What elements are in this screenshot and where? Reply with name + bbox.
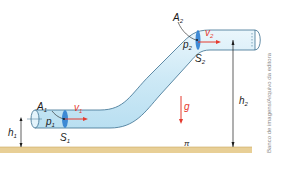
label-s2: S2: [195, 53, 206, 65]
label-s1: S1: [60, 132, 70, 144]
label-h1: h1: [8, 127, 17, 139]
label-h2: h2: [239, 95, 249, 107]
ground-plane: [0, 147, 252, 153]
label-a2: A2: [172, 12, 184, 24]
pipe: [35, 30, 255, 128]
label-v2: v2: [205, 27, 214, 39]
label-plane-pi: π: [184, 139, 190, 148]
label-a1: A1: [36, 101, 47, 113]
pipe-outlet: [255, 30, 260, 50]
label-v1: v1: [74, 102, 82, 114]
image-credit: Banco de imagens/Arquivo da editora: [262, 35, 276, 170]
bernoulli-diagram: A1 p1 v1 S1 h1 A2 p2 v2 S2 h2 g π: [0, 0, 282, 172]
label-g: g: [184, 101, 190, 112]
